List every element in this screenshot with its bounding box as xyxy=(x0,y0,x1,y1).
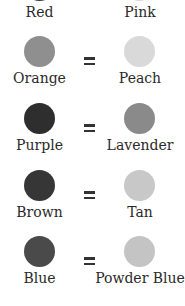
left-color-swatch xyxy=(24,103,55,134)
pair-row: Brown Tan xyxy=(0,154,185,220)
right-color-swatch xyxy=(124,0,155,1)
pair-row: Blue Powder Blue xyxy=(0,220,185,286)
right-color-swatch xyxy=(124,236,155,267)
pair-row: Orange Peach xyxy=(0,20,185,86)
left-color-swatch xyxy=(24,0,55,1)
left-color-label: Red xyxy=(0,4,79,20)
right-color-label: Peach xyxy=(95,70,185,86)
right-color-label: Pink xyxy=(95,4,185,20)
right-color-label: Lavender xyxy=(95,137,185,153)
left-color-label: Brown xyxy=(0,204,79,220)
pair-row: Purple Lavender xyxy=(0,87,185,153)
left-color-label: Purple xyxy=(0,137,79,153)
right-color-swatch xyxy=(124,36,155,67)
left-color-swatch xyxy=(24,170,55,201)
right-color-label: Tan xyxy=(95,204,185,220)
equals-sign xyxy=(84,257,95,265)
left-color-label: Orange xyxy=(0,70,79,86)
right-color-label: Powder Blue xyxy=(95,270,185,286)
pair-row: Red Pink xyxy=(0,0,185,20)
right-color-swatch xyxy=(124,103,155,134)
left-color-swatch xyxy=(24,236,55,267)
left-color-label: Blue xyxy=(0,270,79,286)
equals-sign xyxy=(84,124,95,132)
equals-sign xyxy=(84,57,95,65)
right-color-swatch xyxy=(124,170,155,201)
left-color-swatch xyxy=(24,36,55,67)
equals-sign xyxy=(84,191,95,199)
